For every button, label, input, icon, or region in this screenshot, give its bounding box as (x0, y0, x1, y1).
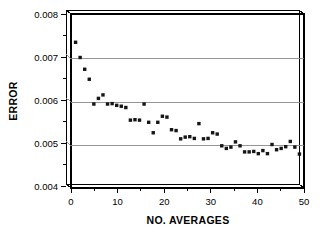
data-point (266, 152, 269, 155)
data-point (275, 148, 278, 151)
data-point (257, 152, 260, 155)
x-tick-label: 0 (68, 196, 73, 207)
data-point (284, 145, 287, 148)
scatter-plot-svg: 0.008 0.007 0.006 0.005 0.004 0 10 20 30 (0, 0, 320, 237)
data-point (83, 68, 86, 71)
data-point (220, 144, 223, 147)
data-point (120, 105, 123, 108)
data-point (211, 131, 214, 134)
data-point (152, 131, 155, 134)
data-point (234, 140, 237, 143)
data-point (243, 150, 246, 153)
data-point (156, 121, 159, 124)
chart-figure: 0.008 0.007 0.006 0.005 0.004 0 10 20 30 (0, 0, 320, 237)
x-axis-ticks (71, 188, 304, 193)
data-point (247, 150, 250, 153)
y-axis-ticks (61, 14, 66, 186)
y-tick-label: 0.006 (34, 95, 58, 106)
data-point (92, 102, 95, 105)
x-tick-labels: 0 10 20 30 40 50 (68, 196, 309, 207)
data-point (270, 143, 273, 146)
data-point (202, 137, 205, 140)
x-tick-label: 30 (206, 196, 217, 207)
y-tick-labels: 0.008 0.007 0.006 0.005 0.004 (34, 9, 58, 192)
data-point (133, 118, 136, 121)
x-tick-label: 40 (252, 196, 263, 207)
data-point (88, 78, 91, 81)
data-point (188, 135, 191, 138)
y-tick-label: 0.004 (34, 181, 58, 192)
data-point (74, 41, 77, 44)
data-point (138, 118, 141, 121)
data-point (161, 115, 164, 118)
data-point (197, 122, 200, 125)
data-point-group (74, 41, 301, 156)
plot-frame-back (66, 10, 299, 184)
data-point (229, 145, 232, 148)
x-tick-label: 20 (159, 196, 170, 207)
y-tick-label: 0.005 (34, 138, 58, 149)
data-point (261, 149, 264, 152)
data-point (216, 132, 219, 135)
x-tick-label: 50 (299, 196, 310, 207)
data-point (129, 118, 132, 121)
data-point (78, 56, 81, 59)
plot-frame-front (71, 14, 304, 188)
data-point (142, 102, 145, 105)
data-point (170, 128, 173, 131)
data-point (193, 137, 196, 140)
data-point (225, 147, 228, 150)
data-point (97, 97, 100, 100)
data-point (293, 145, 296, 148)
y-tick-label: 0.007 (34, 52, 58, 63)
data-point (279, 147, 282, 150)
data-point (179, 137, 182, 140)
data-point (252, 150, 255, 153)
data-point (147, 121, 150, 124)
grid-lines (66, 55, 304, 146)
y-axis-title: ERROR (7, 81, 19, 121)
x-axis-title: NO. AVERAGES (147, 214, 230, 226)
data-point (165, 115, 168, 118)
data-point (110, 102, 113, 105)
data-point (238, 144, 241, 147)
plot-frame-connectors (66, 10, 304, 188)
data-point (101, 93, 104, 96)
data-point (106, 102, 109, 105)
data-point (289, 140, 292, 143)
data-point (174, 129, 177, 132)
data-point (115, 104, 118, 107)
data-point (206, 137, 209, 140)
data-point (184, 135, 187, 138)
data-point (124, 106, 127, 109)
data-point (298, 152, 301, 155)
y-tick-label: 0.008 (34, 9, 58, 20)
x-tick-label: 10 (112, 196, 123, 207)
